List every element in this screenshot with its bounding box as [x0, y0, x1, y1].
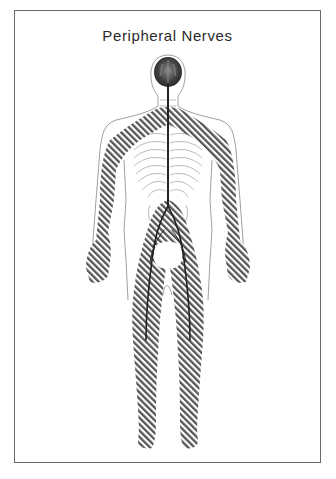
body-figure	[0, 0, 336, 479]
brain	[154, 57, 182, 87]
peripheral-nerve-region-legs	[132, 200, 203, 449]
